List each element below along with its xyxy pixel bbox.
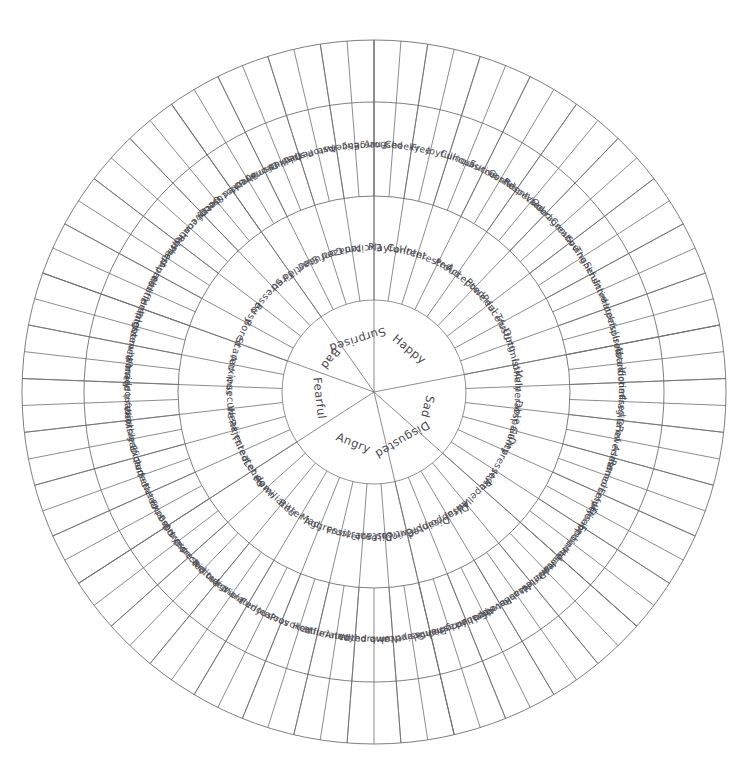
outer-divider [539,499,670,584]
outer-divider [487,552,577,680]
core-label-surprised: Surprised [327,324,387,355]
outer-divider [570,379,726,385]
outer-divider [22,379,178,385]
outer-label-energetic: Energetic [342,140,388,153]
outer-divider [404,586,428,740]
outer-divider [447,66,505,211]
core-label-angry: Angry [334,430,373,456]
outer-divider [320,44,344,198]
outer-divider [566,325,719,355]
outer-divider [171,104,261,232]
outer-divider [79,201,210,286]
mid-label-excited: Excited [344,242,382,256]
outer-divider [79,499,210,584]
outer-divider [35,299,185,340]
outer-divider [24,414,179,432]
outer-divider [569,414,724,432]
core-circle-b [282,300,374,484]
outer-divider [563,299,713,340]
outer-divider [530,511,654,606]
outer-divider [242,574,300,719]
outer-divider [294,583,330,735]
emotion-wheel-container: HappyPlayfulArousedCheekyContentFreeJoyf… [0,0,749,784]
outer-divider [570,400,726,406]
core-label-fearful: Fearful [310,377,329,420]
outer-divider [24,352,179,370]
outer-divider [404,44,428,198]
outer-divider [268,56,315,205]
outer-divider [294,49,330,201]
outer-divider [268,579,315,728]
outer-divider [433,579,480,728]
core-label-sad: Sad [418,394,438,420]
outer-divider [389,41,401,197]
outer-divider [419,49,455,201]
outer-divider [28,429,181,459]
outer-divider [566,429,719,459]
outer-divider [320,586,344,740]
outer-divider [419,583,455,735]
outer-divider [447,574,505,719]
outer-divider [242,66,300,211]
emotion-wheel-diagram: HappyPlayfulArousedCheekyContentFreeJoyf… [0,0,749,784]
outer-divider [569,352,724,370]
outer-divider [35,444,185,485]
outer-divider [171,552,261,680]
core-label-happy: Happy [390,331,429,367]
outer-divider [28,325,181,355]
outer-divider [563,444,713,485]
outer-divider [389,587,401,743]
outer-divider [22,400,178,406]
outer-divider [433,56,480,205]
outer-divider [347,41,359,197]
outer-divider [347,587,359,743]
outer-divider [539,201,670,286]
outer-divider [487,104,577,232]
